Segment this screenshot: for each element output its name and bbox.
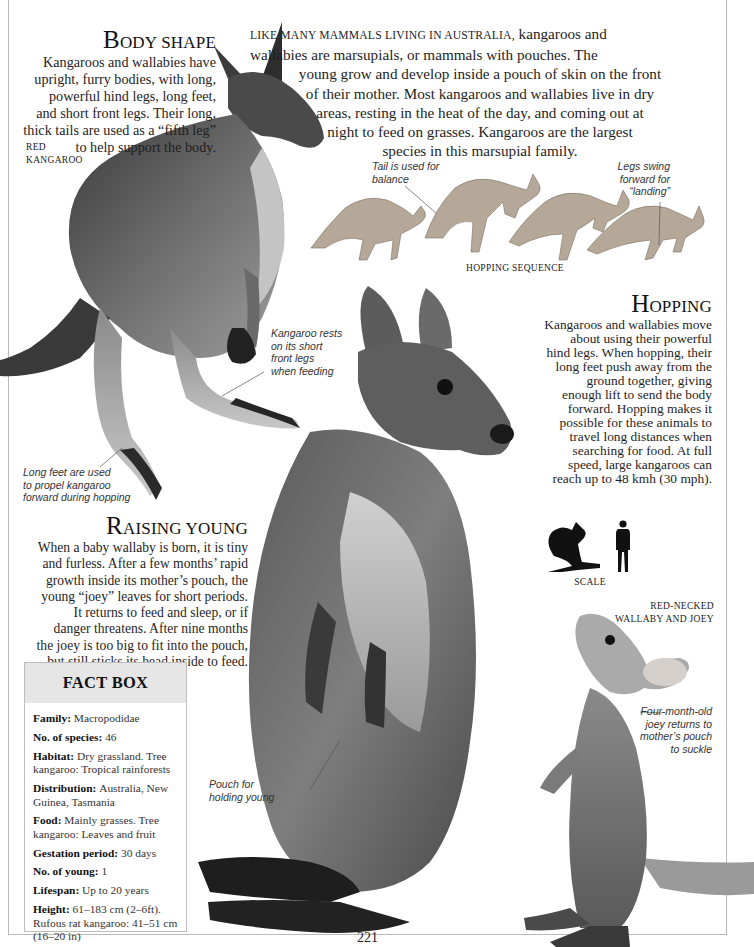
label-line: Red-necked [590, 600, 714, 613]
annot-line: to propel kangaroo [23, 479, 130, 492]
text-line: the joey is too big to fit into the pouc… [16, 638, 248, 654]
label-line: Wallaby and joey [590, 613, 714, 626]
fact-key: Lifespan: [33, 884, 79, 896]
text-line: enough lift to send the body [536, 388, 712, 402]
scale-label: Scale [560, 576, 620, 589]
hopping-section: Hopping Kangaroos and wallabies move abo… [536, 290, 712, 486]
fact-value: Macropodidae [74, 712, 140, 724]
text-line: forward. Hopping makes it [536, 402, 712, 416]
fact-value: 46 [105, 731, 116, 743]
fact-item: Family: Macropodidae [33, 712, 178, 726]
body-shape-heading: Body shape [20, 26, 216, 54]
fact-key: Distribution: [33, 782, 96, 794]
text-line: growth inside its mother’s pouch, the [16, 573, 248, 589]
text-line: and furless. After a few months’ rapid [16, 556, 248, 572]
intro-line: of their mother. Most kangaroos and wall… [250, 84, 710, 103]
intro-line: areas, resting in the heat of the day, a… [250, 103, 710, 122]
text-line: reach up to 48 kmh (30 mph). [536, 472, 712, 486]
raising-young-text: When a baby wallaby is born, it is tiny … [16, 540, 248, 670]
fact-box: FACT BOX Family: Macropodidae No. of spe… [24, 662, 187, 932]
fact-list: Family: Macropodidae No. of species: 46 … [25, 703, 186, 944]
text-line: When a baby wallaby is born, it is tiny [16, 540, 248, 556]
fact-item: Height: 61–183 cm (2–6ft). Rufous rat ka… [33, 903, 178, 944]
fact-item: No. of young: 1 [33, 865, 178, 879]
annot-line: Four-month-old [640, 705, 712, 718]
text-line: danger threatens. After nine months [16, 621, 248, 637]
intro-line: young grow and develop inside a pouch of… [250, 64, 710, 83]
heading-rest: ody shape [120, 33, 216, 52]
text-line: young “joey” leaves for short periods. [16, 589, 248, 605]
raising-young-heading: Raising young [16, 512, 248, 540]
body-shape-section: Body shape Kangaroos and wallabies have … [20, 26, 216, 156]
intro-paragraph: Like many mammals living in Australia, k… [250, 24, 710, 160]
joey-returns-annotation: Four-month-old joey returns to mother’s … [640, 705, 712, 755]
fact-key: Height: [33, 903, 70, 915]
fact-key: No. of young: [33, 865, 99, 877]
intro-line: species in this marsupial family. [250, 141, 710, 160]
fact-value: 30 days [121, 847, 156, 859]
annot-line: Tail is used for [372, 160, 439, 173]
annot-line: holding young [209, 791, 274, 804]
raising-young-section: Raising young When a baby wallaby is bor… [16, 512, 248, 670]
annot-line: mother’s pouch [640, 730, 712, 743]
text-line: speed, large kangaroos can [536, 458, 712, 472]
text-line: travel long distances when [536, 430, 712, 444]
text-line: long feet push away from the [536, 360, 712, 374]
heading-initial: R [106, 512, 123, 539]
rests-front-legs-annotation: Kangaroo rests on its short front legs w… [271, 327, 342, 377]
intro-line: kangaroos and [519, 25, 607, 42]
label-line: Red [26, 141, 83, 154]
annot-line: forward for [608, 173, 670, 186]
annot-line: joey returns to [640, 718, 712, 731]
red-kangaroo-label: Red Kangaroo [26, 141, 83, 167]
long-feet-annotation: Long feet are used to propel kangaroo fo… [23, 466, 130, 504]
annot-line: Kangaroo rests [271, 327, 342, 340]
fact-item: Lifespan: Up to 20 years [33, 884, 178, 898]
text-line: It returns to feed and sleep, or if [16, 605, 248, 621]
text-line: Kangaroos and wallabies move [536, 318, 712, 332]
fact-item: Habitat: Dry grassland. Tree kangaroo: T… [33, 750, 178, 777]
annot-line: on its short [271, 340, 342, 353]
heading-rest: opping [649, 297, 712, 316]
heading-rest: aising young [123, 519, 248, 538]
text-line: Kangaroos and wallabies have [20, 54, 216, 71]
fact-value: Up to 20 years [82, 884, 149, 896]
fact-key: Gestation period: [33, 847, 118, 859]
annot-line: “landing” [608, 185, 670, 198]
label-line: Kangaroo [26, 154, 83, 167]
annot-line: forward during hopping [23, 491, 130, 504]
intro-line-1: Like many mammals living in Australia, k… [250, 24, 710, 45]
annot-line: Long feet are used [23, 466, 130, 479]
heading-initial: B [103, 26, 120, 53]
annot-line: Legs swing [608, 160, 670, 173]
page-number: 221 [357, 930, 378, 946]
intro-line: night to feed on grasses. Kangaroos are … [250, 122, 710, 141]
fact-item: Gestation period: 30 days [33, 847, 178, 861]
text-line: upright, furry bodies, with long, [20, 71, 216, 88]
hopping-text: Kangaroos and wallabies move about using… [536, 318, 712, 486]
text-line: thick tails are used as a “fifth leg” [20, 122, 216, 139]
fact-key: Food: [33, 814, 61, 826]
annot-line: Pouch for [209, 778, 274, 791]
fact-key: No. of species: [33, 731, 102, 743]
fact-item: Distribution: Australia, New Guinea, Tas… [33, 782, 178, 809]
wallaby-and-joey-label: Red-necked Wallaby and joey [590, 600, 714, 626]
fact-item: No. of species: 46 [33, 731, 178, 745]
fact-value: 1 [101, 865, 107, 877]
pouch-annotation: Pouch for holding young [209, 778, 274, 803]
hopping-heading: Hopping [536, 290, 712, 318]
fact-key: Family: [33, 712, 71, 724]
label-text: Scale [574, 577, 606, 587]
heading-initial: H [631, 290, 649, 317]
annot-line: balance [372, 173, 439, 186]
fact-key: Habitat: [33, 750, 74, 762]
text-line: and short front legs. Their long, [20, 105, 216, 122]
text-line: powerful hind legs, long feet, [20, 88, 216, 105]
text-line: hind legs. When hopping, their [536, 346, 712, 360]
fact-box-title: FACT BOX [25, 663, 186, 703]
fact-item: Food: Mainly grasses. Tree kangaroo: Lea… [33, 814, 178, 841]
intro-lead: Like many mammals living in Australia, [250, 29, 515, 42]
text-line: searching for food. At full [536, 444, 712, 458]
text-line: possible for these animals to [536, 416, 712, 430]
legs-swing-annotation: Legs swing forward for “landing” [608, 160, 670, 198]
